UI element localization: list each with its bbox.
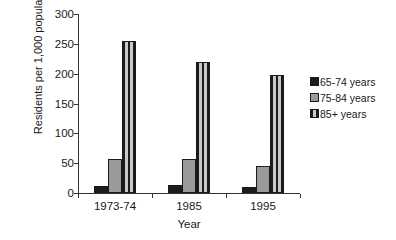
y-axis-tick-mark	[74, 133, 78, 134]
y-axis-tick-label: 150	[40, 99, 74, 109]
bar-1985-series-0	[168, 185, 182, 193]
legend-item-0: 65-74 years	[310, 74, 396, 89]
y-axis-tick-label: 50	[40, 158, 74, 168]
y-axis-tick-label: 0	[40, 188, 74, 198]
legend-item-label: 85+ years	[320, 108, 366, 120]
y-axis-tick-mark	[74, 163, 78, 164]
legend-item-1: 75-84 years	[310, 90, 396, 105]
bar-1995-series-2	[270, 75, 284, 193]
y-axis-tick-mark	[74, 14, 78, 15]
y-axis-tick-mark	[74, 44, 78, 45]
bar-chart-figure: Residents per 1,000 population 050100150…	[0, 0, 396, 240]
bar-197374-series-1	[108, 159, 122, 193]
legend-swatch-icon	[310, 77, 319, 86]
x-axis-tick-mark	[300, 194, 301, 198]
x-axis-tick-mark	[78, 194, 79, 198]
x-axis-title: Year	[78, 218, 300, 230]
x-axis-tick-label: 1995	[226, 200, 300, 212]
y-axis-tick-label: 300	[40, 9, 74, 19]
y-axis-line	[78, 14, 79, 193]
bar-197374-series-2	[122, 41, 136, 193]
legend-item-label: 65-74 years	[320, 76, 375, 88]
x-axis-tick-label: 1973-74	[78, 200, 152, 212]
y-axis-tick-labels: 050100150200250300	[36, 0, 74, 240]
bar-1995-series-0	[242, 187, 256, 193]
chart-legend: 65-74 years75-84 years85+ years	[310, 74, 396, 122]
y-axis-tick-label: 100	[40, 128, 74, 138]
bar-1985-series-2	[196, 62, 210, 193]
x-axis-tick-mark	[226, 194, 227, 198]
legend-swatch-icon	[310, 93, 319, 102]
plot-area: 1973-7419851995	[78, 14, 300, 193]
bar-1985-series-1	[182, 159, 196, 193]
bar-1995-series-1	[256, 166, 270, 193]
legend-item-label: 75-84 years	[320, 92, 375, 104]
bar-197374-series-0	[94, 186, 108, 193]
y-axis-tick-mark	[74, 104, 78, 105]
y-axis-tick-label: 200	[40, 69, 74, 79]
x-axis-tick-label: 1985	[152, 200, 226, 212]
legend-swatch-icon	[310, 109, 319, 118]
x-axis-tick-mark	[152, 194, 153, 198]
y-axis-tick-mark	[74, 74, 78, 75]
x-axis-line	[78, 193, 300, 194]
legend-item-2: 85+ years	[310, 106, 396, 121]
y-axis-tick-label: 250	[40, 39, 74, 49]
